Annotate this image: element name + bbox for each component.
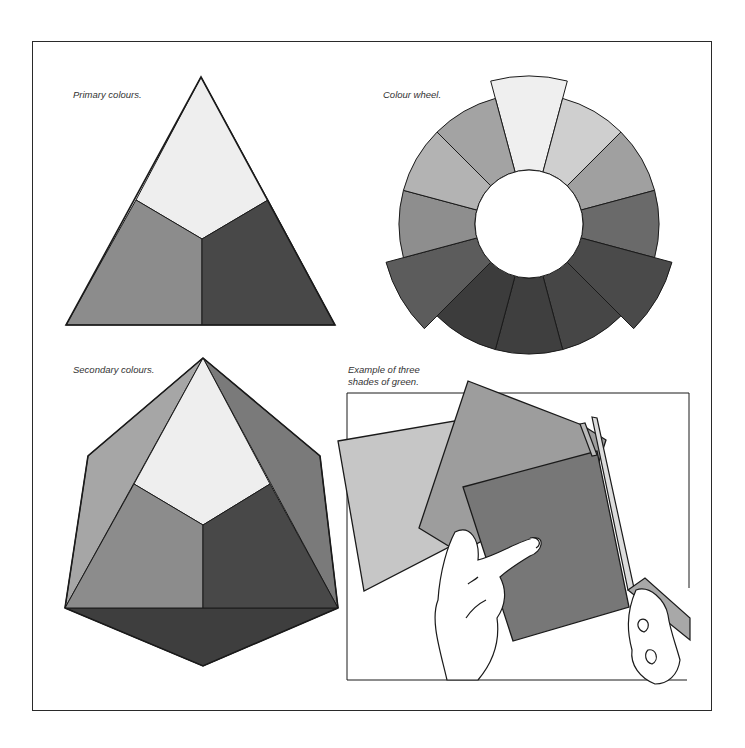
green-shades-illustration: [338, 381, 690, 684]
caption-green-shades: Example of three shades of green.: [348, 364, 420, 388]
primary-triangle: [66, 77, 335, 325]
colour-wheel: [386, 76, 672, 354]
caption-colour-wheel: Colour wheel.: [383, 89, 441, 101]
secondary-hexagon: [65, 358, 338, 666]
wheel-centre: [475, 170, 583, 278]
caption-green-shades-line2: shades of green.: [348, 376, 420, 388]
caption-primary-colours: Primary colours.: [73, 89, 142, 101]
secondary-segment-bottom: [65, 608, 338, 666]
caption-secondary-colours: Secondary colours.: [73, 364, 154, 376]
caption-green-shades-line1: Example of three: [348, 364, 420, 376]
